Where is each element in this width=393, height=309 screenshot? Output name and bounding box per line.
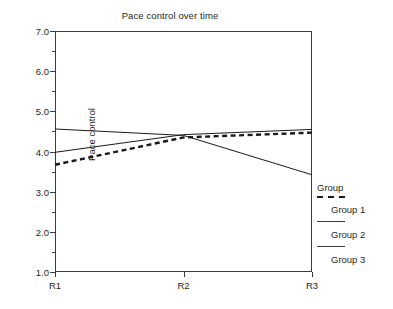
- series-lines: [55, 31, 312, 272]
- x-tick-label: R1: [49, 280, 61, 291]
- x-tick-mark: [55, 272, 56, 277]
- legend-swatch-solid: [317, 246, 345, 250]
- legend-swatch-solid: [317, 221, 345, 225]
- x-tick-mark: [184, 272, 185, 277]
- legend-entries: Group 1Group 2Group 3: [317, 196, 393, 271]
- y-tick-label: 4.0: [36, 146, 49, 157]
- legend-entry: Group 1: [317, 196, 393, 221]
- x-tick-mark: [312, 272, 313, 277]
- legend-label: Group 3: [331, 254, 365, 265]
- y-tick-label: 2.0: [36, 226, 49, 237]
- chart-title: Pace control over time: [0, 10, 340, 21]
- y-tick-label: 1.0: [36, 267, 49, 278]
- legend-entry: Group 3: [317, 246, 393, 271]
- chart-legend: Group Group 1Group 2Group 3: [317, 182, 393, 271]
- x-tick-label: R3: [306, 280, 318, 291]
- legend-entry: Group 2: [317, 221, 393, 246]
- legend-title: Group: [317, 182, 393, 193]
- legend-label: Group 2: [331, 229, 365, 240]
- chart-figure: Pace control over time Pace control 1.02…: [0, 0, 393, 309]
- legend-swatch-dashed: [317, 196, 345, 201]
- plot-area: Pace control 1.02.03.04.05.06.07.0 R1R2R…: [55, 31, 312, 272]
- series-line-group-3: [55, 129, 312, 175]
- legend-label: Group 1: [331, 204, 365, 215]
- y-tick-label: 3.0: [36, 186, 49, 197]
- y-tick-label: 7.0: [36, 26, 49, 37]
- y-tick-label: 5.0: [36, 106, 49, 117]
- series-line-group-1: [55, 133, 312, 165]
- series-line-group-2: [55, 129, 312, 152]
- y-tick-label: 6.0: [36, 66, 49, 77]
- x-tick-label: R2: [177, 280, 189, 291]
